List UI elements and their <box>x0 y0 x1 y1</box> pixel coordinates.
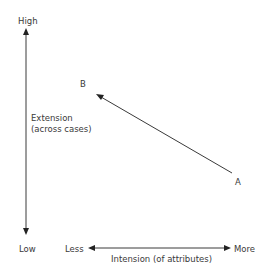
y-axis-title-line2: (across cases) <box>31 124 92 134</box>
point-b-label: B <box>80 79 86 89</box>
y-axis-high-label: High <box>18 16 38 26</box>
point-a-label: A <box>235 177 241 187</box>
diagram-canvas <box>0 0 271 275</box>
arrowhead-up-icon <box>23 28 29 35</box>
y-axis-low-label: Low <box>19 244 36 254</box>
arrowhead-right-icon <box>224 245 231 251</box>
arrowhead-left-icon <box>88 245 95 251</box>
vertical-axis-arrow <box>23 28 29 235</box>
arrowhead-down-icon <box>23 228 29 235</box>
horizontal-axis-arrow <box>88 245 231 251</box>
x-axis-title: Intension (of attributes) <box>111 254 212 264</box>
arrowhead-b-icon <box>96 94 104 100</box>
a-to-b-arrow <box>96 94 232 173</box>
y-axis-title-line1: Extension <box>31 113 73 123</box>
x-axis-more-label: More <box>234 244 255 254</box>
x-axis-less-label: Less <box>65 244 84 254</box>
